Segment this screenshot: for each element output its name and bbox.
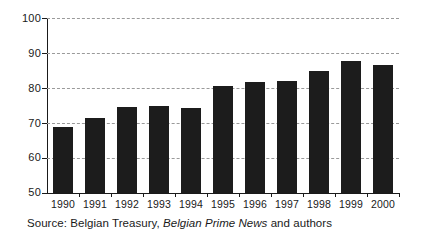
y-tick-group: 100: [0, 13, 41, 24]
bar: [181, 108, 201, 193]
bar: [277, 81, 297, 193]
caption-italic-title: Belgian Prime News: [163, 217, 267, 229]
x-tick-mark: [143, 193, 144, 197]
x-tick-mark: [335, 193, 336, 197]
bar: [341, 61, 361, 193]
bar: [117, 107, 137, 193]
y-tick-group: 60: [0, 152, 41, 163]
x-tick-mark: [111, 193, 112, 197]
y-tick-label: 50: [3, 187, 41, 198]
x-tick-mark: [207, 193, 208, 197]
x-tick-label: 2000: [363, 198, 403, 210]
y-tick-group: 70: [0, 118, 41, 129]
x-tick-mark: [271, 193, 272, 197]
bar: [213, 86, 233, 193]
gridline-100: [47, 18, 399, 19]
chart-figure: 100 90 80 70 60 50 1990199119921: [0, 0, 421, 242]
caption-suffix: and authors: [267, 217, 332, 229]
caption-prefix: Source: Belgian Treasury,: [27, 217, 163, 229]
bar: [149, 106, 169, 193]
y-tick-label: 100: [3, 13, 41, 24]
x-tick-mark: [399, 193, 400, 197]
x-tick-mark: [175, 193, 176, 197]
plot-area: [47, 18, 399, 193]
bar: [85, 118, 105, 193]
y-tick-group: 50: [0, 187, 41, 198]
y-tick-group: 90: [0, 48, 41, 59]
x-tick-mark: [303, 193, 304, 197]
gridline-90: [47, 53, 399, 54]
bar: [53, 127, 73, 194]
x-tick-mark: [239, 193, 240, 197]
y-tick-label: 60: [3, 152, 41, 163]
y-tick-label: 90: [3, 48, 41, 59]
bar: [309, 71, 329, 194]
bar: [245, 82, 265, 193]
x-axis-line: [47, 193, 400, 194]
source-caption: Source: Belgian Treasury, Belgian Prime …: [27, 216, 332, 230]
x-tick-mark: [367, 193, 368, 197]
x-tick-mark: [79, 193, 80, 197]
y-tick-label: 70: [3, 118, 41, 129]
bar: [373, 65, 393, 193]
y-tick-label: 80: [3, 83, 41, 94]
y-tick-group: 80: [0, 83, 41, 94]
